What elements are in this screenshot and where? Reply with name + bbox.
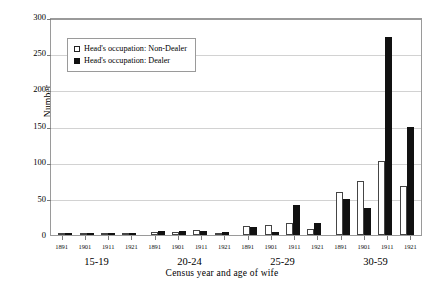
- x-tick-30-59-1901: [364, 236, 365, 240]
- x-tick-25-29-1901: [271, 236, 272, 240]
- bar-dealer-30-59-1911: [385, 37, 392, 235]
- bar-dealer-30-59-1921: [407, 127, 414, 235]
- legend-entry-dealer: Head's occupation: Dealer: [74, 55, 187, 67]
- x-axis-title: Census year and age of wife: [0, 268, 444, 278]
- x-tick-30-59-1921: [410, 236, 411, 240]
- x-year-label-30-59-1901: 1901: [352, 243, 375, 250]
- bar-dealer-25-29-1911: [293, 205, 300, 235]
- legend: Head's occupation: Non-Dealer Head's occ…: [67, 38, 196, 72]
- bar-dealer-20-24-1901: [179, 231, 186, 235]
- bar-pair-25-29-1901: [265, 19, 279, 235]
- x-year-label-25-29-1911: 1911: [283, 243, 306, 250]
- x-axis-area: 189119011911192115-19189119011911192120-…: [50, 236, 422, 292]
- bar-dealer-15-19-1891: [65, 233, 72, 235]
- x-tick-30-59-1911: [387, 236, 388, 240]
- x-tick-15-19-1891: [62, 236, 63, 240]
- x-group-30-59: 189119011911192130-59: [329, 236, 422, 292]
- bar-non-dealer-30-59-1911: [378, 161, 385, 235]
- bar-non-dealer-20-24-1921: [215, 233, 222, 235]
- bar-dealer-25-29-1901: [272, 232, 279, 235]
- bar-dealer-20-24-1921: [222, 232, 229, 235]
- bar-non-dealer-30-59-1891: [336, 192, 343, 235]
- bar-dealer-15-19-1901: [87, 233, 94, 235]
- x-tick-15-19-1921: [131, 236, 132, 240]
- x-year-label-15-19-1911: 1911: [97, 243, 120, 250]
- x-year-label-20-24-1891: 1891: [143, 243, 166, 250]
- bar-non-dealer-25-29-1911: [286, 223, 293, 235]
- bar-pair-30-59-1891: [336, 19, 350, 235]
- legend-label-dealer: Head's occupation: Dealer: [84, 55, 170, 67]
- bar-dealer-20-24-1891: [158, 231, 165, 235]
- bar-non-dealer-20-24-1901: [172, 232, 179, 235]
- bar-non-dealer-30-59-1901: [357, 181, 364, 235]
- x-year-label-30-59-1921: 1921: [399, 243, 422, 250]
- x-year-label-20-24-1921: 1921: [213, 243, 236, 250]
- bar-non-dealer-15-19-1921: [122, 233, 129, 235]
- x-year-labels-25-29: 1891190119111921: [236, 243, 329, 250]
- bar-pair-30-59-1911: [378, 19, 392, 235]
- bar-non-dealer-25-29-1921: [307, 229, 314, 235]
- bar-non-dealer-30-59-1921: [400, 186, 407, 235]
- bar-non-dealer-25-29-1891: [243, 226, 250, 235]
- x-year-label-15-19-1891: 1891: [50, 243, 73, 250]
- x-year-label-25-29-1901: 1901: [259, 243, 282, 250]
- x-group-20-24: 189119011911192120-24: [143, 236, 236, 292]
- bar-dealer-30-59-1891: [343, 199, 350, 235]
- y-tick-0: 0: [20, 231, 46, 240]
- x-tick-30-59-1891: [341, 236, 342, 240]
- x-tick-25-29-1891: [248, 236, 249, 240]
- filled-square-icon: [74, 58, 80, 64]
- bar-non-dealer-20-24-1911: [193, 230, 200, 235]
- x-group-label-30-59: 30-59: [329, 256, 422, 267]
- y-tick-100: 100: [20, 158, 46, 167]
- x-year-labels-30-59: 1891190119111921: [329, 243, 422, 250]
- y-tick-300: 300: [20, 13, 46, 22]
- bar-dealer-30-59-1901: [364, 208, 371, 235]
- bar-non-dealer-25-29-1901: [265, 225, 272, 235]
- y-tick-200: 200: [20, 85, 46, 94]
- x-year-label-20-24-1911: 1911: [190, 243, 213, 250]
- legend-entry-non-dealer: Head's occupation: Non-Dealer: [74, 43, 187, 55]
- bar-dealer-15-19-1911: [108, 233, 115, 235]
- bar-dealer-25-29-1891: [250, 227, 257, 235]
- x-tick-20-24-1911: [201, 236, 202, 240]
- x-tick-20-24-1891: [155, 236, 156, 240]
- x-year-label-30-59-1891: 1891: [329, 243, 352, 250]
- bar-non-dealer-20-24-1891: [151, 232, 158, 235]
- bar-dealer-25-29-1921: [314, 223, 321, 235]
- bar-chart: Number 300 250 200 150 100 50 0 Head's o…: [0, 0, 444, 292]
- x-year-labels-20-24: 1891190119111921: [143, 243, 236, 250]
- bar-dealer-15-19-1921: [129, 233, 136, 235]
- y-tick-50: 50: [20, 195, 46, 204]
- y-tick-250: 250: [20, 49, 46, 58]
- x-group-25-29: 189119011911192125-29: [236, 236, 329, 292]
- x-group-label-15-19: 15-19: [50, 256, 143, 267]
- bar-pair-20-24-1921: [215, 19, 229, 235]
- bar-pair-25-29-1911: [286, 19, 300, 235]
- x-group-15-19: 189119011911192115-19: [50, 236, 143, 292]
- x-group-label-25-29: 25-29: [236, 256, 329, 267]
- x-tick-25-29-1911: [294, 236, 295, 240]
- x-tick-15-19-1901: [85, 236, 86, 240]
- bar-non-dealer-15-19-1911: [101, 233, 108, 235]
- bar-non-dealer-15-19-1901: [80, 233, 87, 235]
- x-tick-20-24-1921: [224, 236, 225, 240]
- x-year-label-15-19-1921: 1921: [120, 243, 143, 250]
- legend-label-non-dealer: Head's occupation: Non-Dealer: [84, 43, 187, 55]
- x-tick-25-29-1921: [317, 236, 318, 240]
- bar-pair-25-29-1921: [307, 19, 321, 235]
- bar-non-dealer-15-19-1891: [58, 233, 65, 235]
- x-year-labels-15-19: 1891190119111921: [50, 243, 143, 250]
- open-square-icon: [74, 46, 80, 52]
- bar-group-30-59: [329, 19, 422, 235]
- x-axis-groups: 189119011911192115-19189119011911192120-…: [50, 236, 422, 292]
- bar-pair-25-29-1891: [243, 19, 257, 235]
- bar-pair-30-59-1901: [357, 19, 371, 235]
- x-year-label-20-24-1901: 1901: [166, 243, 189, 250]
- x-year-label-25-29-1891: 1891: [236, 243, 259, 250]
- bar-pair-30-59-1921: [400, 19, 414, 235]
- bar-dealer-20-24-1911: [200, 231, 207, 235]
- y-axis-tick-labels: 300 250 200 150 100 50 0: [16, 0, 46, 292]
- x-year-label-25-29-1921: 1921: [306, 243, 329, 250]
- x-year-label-15-19-1901: 1901: [73, 243, 96, 250]
